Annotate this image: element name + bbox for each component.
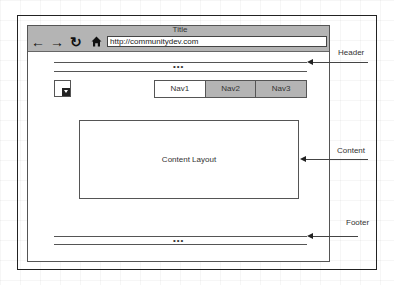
content-annotation-label: Content (337, 146, 365, 155)
header-line-bottom (54, 71, 307, 72)
content-layout-box: Content Layout (79, 120, 299, 199)
footer-line-bottom (54, 244, 307, 245)
content-layout-label: Content Layout (162, 155, 216, 164)
address-bar-input[interactable]: http://communitydev.com (107, 36, 327, 47)
window-title: Title (150, 25, 210, 34)
arrow-head-icon (307, 233, 313, 239)
home-icon[interactable] (91, 35, 102, 47)
header-annotation-arrow (312, 62, 368, 63)
arrow-head-icon (307, 59, 313, 65)
nav-tab-2[interactable]: Nav2 (206, 81, 257, 97)
content-annotation-arrow (305, 159, 368, 160)
nav-tab-3[interactable]: Nav3 (256, 81, 306, 97)
dropdown-button[interactable] (62, 88, 70, 96)
dropdown-select[interactable] (54, 80, 71, 97)
header-dots: ••• (173, 63, 184, 71)
footer-annotation-arrow (312, 236, 358, 237)
nav-bar: Nav1 Nav2 Nav3 (154, 80, 307, 98)
footer-annotation-label: Footer (346, 218, 369, 227)
arrow-head-icon (300, 156, 306, 162)
nav-tab-1[interactable]: Nav1 (155, 81, 206, 97)
chevron-down-icon (64, 90, 68, 93)
reload-icon[interactable]: ↻ (70, 35, 82, 49)
back-arrow-icon[interactable]: ← (31, 35, 45, 49)
forward-arrow-icon[interactable]: → (50, 35, 64, 49)
header-annotation-label: Header (338, 48, 364, 57)
